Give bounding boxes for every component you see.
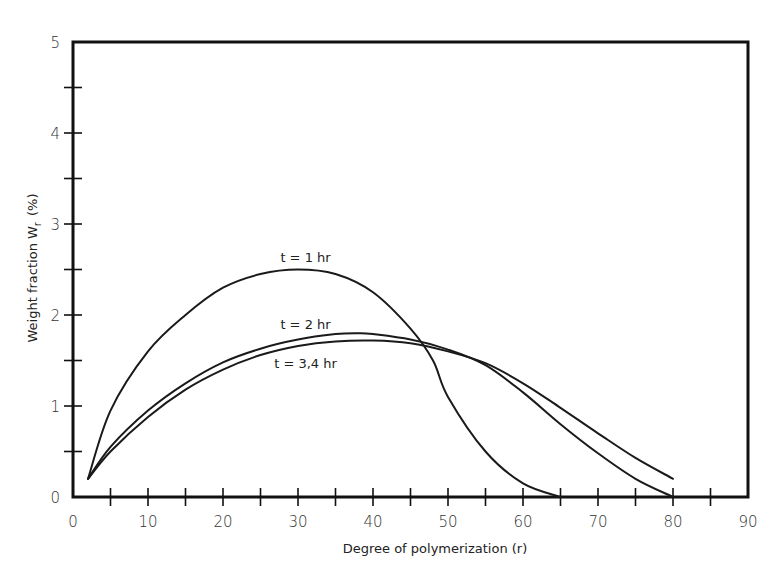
curve-label: t = 2 hr bbox=[280, 317, 331, 332]
plot-frame bbox=[73, 42, 748, 497]
x-tick-label: 70 bbox=[588, 513, 607, 531]
series-line-t-1-hr bbox=[88, 270, 561, 498]
curve-annotations: t = 1 hrt = 2 hrt = 3,4 hr bbox=[274, 250, 337, 371]
y-tick-label: 3 bbox=[50, 216, 60, 234]
curve-label: t = 1 hr bbox=[280, 250, 331, 265]
series-line-t-3-4-hr bbox=[88, 340, 673, 478]
series-lines bbox=[88, 270, 673, 498]
y-axis-title: Weight fraction Wr(%) bbox=[25, 194, 43, 343]
y-tick-label: 0 bbox=[50, 489, 60, 507]
x-axis: 0102030405060708090 bbox=[68, 488, 757, 531]
x-tick-label: 0 bbox=[68, 513, 78, 531]
y-axis-title-unit: (%) bbox=[25, 194, 40, 217]
x-tick-label: 30 bbox=[288, 513, 307, 531]
x-tick-label: 80 bbox=[663, 513, 682, 531]
x-axis-title: Degree of polymerization (r) bbox=[343, 541, 528, 556]
series-line-t-2-hr bbox=[88, 333, 673, 497]
x-tick-label: 20 bbox=[213, 513, 232, 531]
y-tick-label: 1 bbox=[50, 398, 60, 416]
x-tick-label: 10 bbox=[138, 513, 157, 531]
y-axis-title-main: Weight fraction W bbox=[25, 226, 40, 342]
x-tick-label: 50 bbox=[438, 513, 457, 531]
plot-border bbox=[73, 42, 748, 497]
x-tick-label: 90 bbox=[738, 513, 757, 531]
y-tick-label: 4 bbox=[50, 125, 60, 143]
x-tick-label: 40 bbox=[363, 513, 382, 531]
y-tick-label: 5 bbox=[50, 34, 60, 52]
y-axis-title-group: Weight fraction Wr(%) bbox=[25, 194, 43, 343]
y-tick-label: 2 bbox=[50, 307, 60, 325]
curve-label: t = 3,4 hr bbox=[274, 356, 337, 371]
x-tick-label: 60 bbox=[513, 513, 532, 531]
weight-fraction-chart: 0102030405060708090 012345 t = 1 hrt = 2… bbox=[0, 0, 784, 578]
y-axis-title-subscript: r bbox=[32, 221, 43, 226]
y-axis: 012345 bbox=[50, 34, 82, 507]
